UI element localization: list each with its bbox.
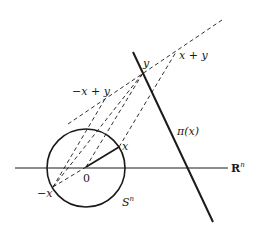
label-neg-x-plus-y: −x + y — [72, 85, 111, 98]
diagram-canvas: 0 x −x y x + y −x + y π(x) Rn Sn — [0, 0, 257, 235]
vector-x — [86, 147, 119, 167]
label-rn-sup: n — [240, 161, 245, 169]
label-origin: 0 — [83, 172, 90, 185]
pi-x-line — [133, 52, 213, 222]
label-x-plus-y: x + y — [179, 49, 208, 62]
label-y: y — [142, 57, 150, 70]
dashed-construction-lines — [53, 20, 222, 187]
label-rn: Rn — [231, 161, 245, 175]
dash-negx-to-origin — [53, 167, 86, 187]
label-sn: Sn — [122, 195, 135, 209]
label-pi-x: π(x) — [176, 125, 199, 138]
dash-negx-to-negxy — [53, 99, 105, 187]
line-through-y — [68, 20, 222, 124]
label-neg-x: −x — [37, 187, 53, 200]
label-x: x — [122, 140, 129, 153]
label-sn-sup: n — [130, 195, 135, 203]
